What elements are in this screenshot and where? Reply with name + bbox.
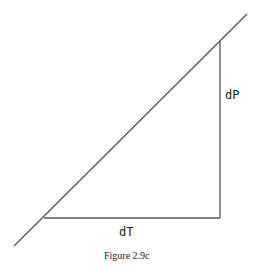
- dp-label: dP: [225, 88, 239, 102]
- diagram-canvas: dP dT Figure 2.9c: [0, 0, 256, 269]
- slope-line: [14, 14, 247, 246]
- figure-caption: Figure 2.9c: [104, 250, 150, 261]
- dt-label: dT: [119, 225, 133, 239]
